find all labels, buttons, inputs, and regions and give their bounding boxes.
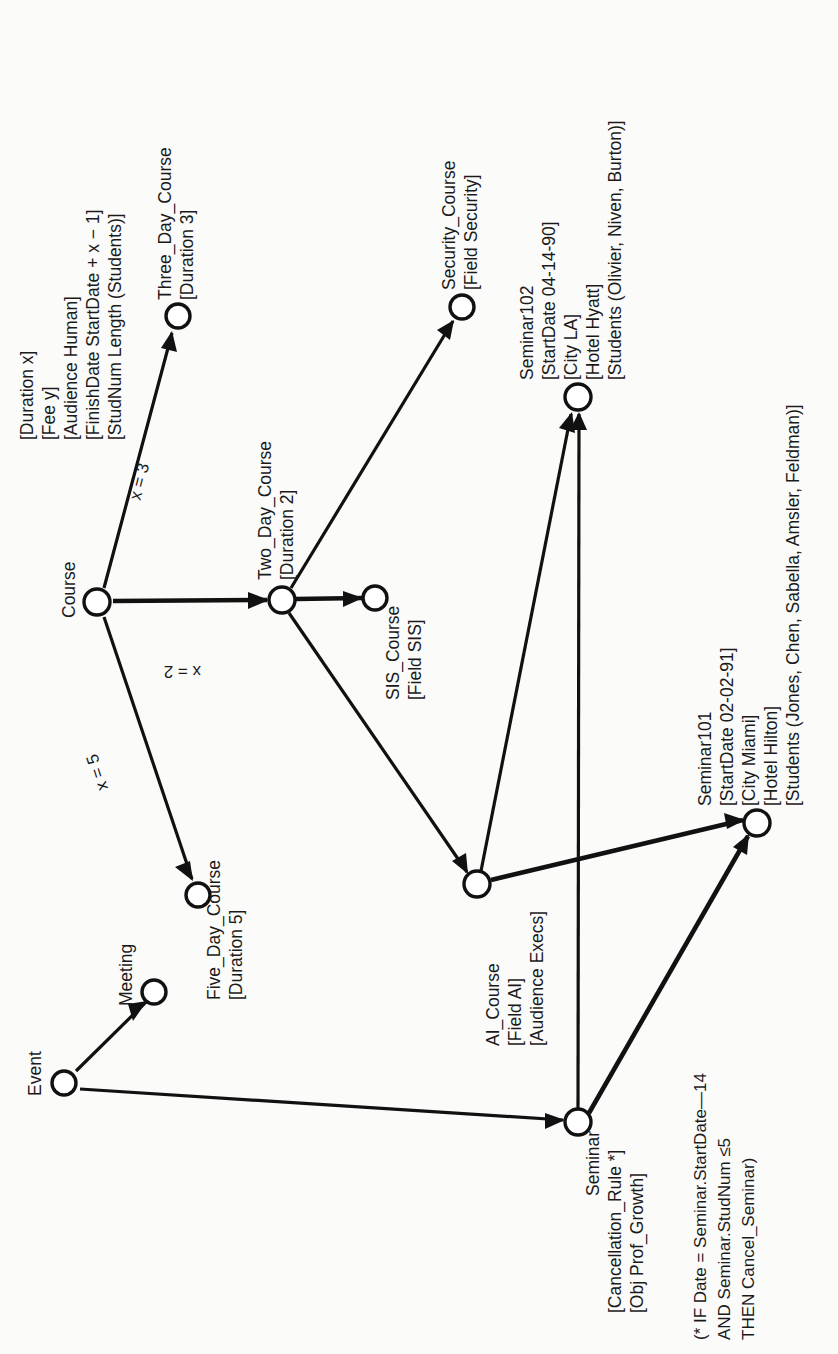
node-ai-course[interactable] bbox=[464, 871, 490, 897]
edge-label-x5: x = 5 bbox=[82, 752, 112, 793]
edge-layer bbox=[76, 320, 749, 1129]
label-security-course-field: [Field Security] bbox=[461, 174, 481, 290]
label-seminar102: Seminar102 bbox=[517, 286, 537, 380]
edge-label-x2: x = 2 bbox=[164, 662, 201, 681]
edge-seminar-seminar101 bbox=[589, 836, 748, 1113]
label-seminar101-students: [Students (Jones, Chen, Sabella, Amsler,… bbox=[783, 404, 803, 806]
label-seminar102-students: [Students (Olivier, Niven, Burton)] bbox=[605, 120, 625, 380]
label-three-day-course-duration: [Duration 3] bbox=[177, 210, 197, 300]
network-diagram: Event Meeting Course [Duration x] [Fee y… bbox=[0, 0, 838, 1354]
diagram-canvas: Event Meeting Course [Duration x] [Fee y… bbox=[0, 0, 838, 1354]
node-event[interactable] bbox=[52, 1071, 76, 1095]
label-ai-course: AI_Course bbox=[483, 963, 504, 1046]
node-security-course[interactable] bbox=[450, 295, 474, 319]
label-course-attr-finishdate: [FinishDate StartDate + x − 1] bbox=[83, 209, 103, 440]
node-three-day-course[interactable] bbox=[166, 304, 190, 328]
label-five-day-course: Five_Day_Course bbox=[204, 860, 225, 1000]
edge-ai-seminar102 bbox=[481, 414, 571, 871]
node-seminar101[interactable] bbox=[744, 810, 770, 836]
label-sis-course: SIS_Course bbox=[383, 606, 404, 700]
label-two-day-course-duration: [Duration 2] bbox=[277, 490, 297, 580]
edge-event-seminar bbox=[80, 1089, 563, 1120]
footnote-line-1: (* IF Date = Seminar.StartDate—14 bbox=[691, 1073, 710, 1340]
label-seminar: Seminar bbox=[583, 1131, 603, 1196]
edge-two-day-security bbox=[291, 321, 453, 588]
label-course-attr-fee: [Fee y] bbox=[39, 387, 59, 441]
label-seminar102-startdate: [StartDate 04-14-90] bbox=[539, 221, 559, 380]
arrowhead-ai-seminar101 bbox=[724, 813, 745, 829]
arrowhead-two-day-sis bbox=[343, 591, 363, 607]
label-course: Course bbox=[59, 562, 79, 618]
label-seminar101-hotel: [Hotel Hilton] bbox=[761, 706, 781, 806]
node-two-day-course[interactable] bbox=[269, 587, 295, 613]
label-sis-course-field: [Field SIS] bbox=[405, 619, 425, 700]
label-security-course: Security_Course bbox=[439, 161, 460, 290]
arrowhead-course-five-day bbox=[175, 861, 193, 881]
label-seminar-obj: [Obj Prof_Growth] bbox=[627, 1173, 648, 1313]
label-two-day-course: Two_Day_Course bbox=[255, 441, 276, 580]
label-ai-course-audience: [Audience Execs] bbox=[527, 911, 547, 1046]
label-seminar102-hotel: [Hotel Hyatt] bbox=[583, 284, 603, 380]
edge-label-x3: x = 3 bbox=[126, 461, 153, 502]
arrowhead-two-day-security bbox=[437, 320, 454, 340]
node-seminar102[interactable] bbox=[565, 384, 591, 410]
label-course-attr-studnum: [StudNum Length (Students)] bbox=[105, 213, 125, 440]
edge-course-two-day bbox=[113, 600, 267, 601]
node-course[interactable] bbox=[84, 589, 110, 615]
node-meeting[interactable] bbox=[142, 980, 166, 1004]
node-layer bbox=[52, 295, 770, 1135]
label-course-attr-duration: [Duration x] bbox=[17, 351, 37, 440]
edge-two-day-ai bbox=[289, 613, 467, 872]
edge-course-five-day bbox=[104, 617, 192, 879]
footnote-line-2: AND Seminar.StudNum ≤5 bbox=[715, 1138, 734, 1340]
label-layer: Event Meeting Course [Duration x] [Fee y… bbox=[17, 120, 803, 1340]
label-course-attr-audience: [Audience Human] bbox=[61, 296, 81, 440]
label-seminar101-city: [City Miami] bbox=[739, 715, 759, 806]
arrowhead-course-two-day bbox=[248, 592, 269, 609]
edge-seminar-seminar102 bbox=[578, 414, 579, 1108]
arrowhead-event-seminar bbox=[545, 1113, 565, 1129]
label-ai-course-field: [Field AI] bbox=[505, 978, 525, 1046]
label-three-day-course: Three_Day_Course bbox=[155, 147, 176, 300]
label-meeting: Meeting bbox=[116, 944, 136, 1006]
label-seminar101-startdate: [StartDate 02-02-91] bbox=[717, 647, 737, 806]
label-event: Event bbox=[25, 1051, 45, 1096]
label-seminar101: Seminar101 bbox=[695, 712, 715, 806]
label-five-day-course-duration: [Duration 5] bbox=[226, 910, 246, 1000]
label-seminar102-city: [City LA] bbox=[561, 314, 581, 380]
arrowhead-course-three-day bbox=[161, 331, 177, 352]
footnote-line-3: THEN Cancel_Seminar) bbox=[739, 1158, 758, 1340]
label-seminar-cancellation-rule: [Cancellation_Rule *] bbox=[605, 1150, 626, 1313]
edge-ai-seminar101 bbox=[491, 820, 743, 880]
